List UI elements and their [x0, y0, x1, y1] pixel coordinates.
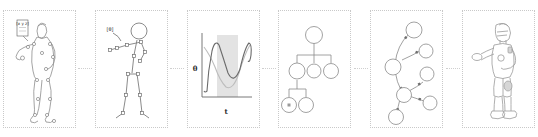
tree-node-leaf-2: [299, 97, 314, 112]
graph-node-1: [385, 59, 401, 75]
tree-node-child-1: [289, 63, 305, 79]
connector-4-5: [354, 68, 368, 70]
graph-node-4: [420, 67, 434, 81]
trajectory-chart: θ t: [188, 11, 259, 127]
vector-label-text: [x y z]: [16, 21, 29, 26]
panel-skeleton-angles: [θ]: [95, 10, 168, 128]
tree-node-child-2: [307, 64, 321, 78]
graph-node-6: [389, 109, 404, 124]
pipeline-figure: [x y z]: [0, 0, 538, 137]
theta-label-text: [θ]: [106, 26, 113, 32]
panel-human-keypoints: [x y z]: [3, 10, 76, 128]
graph-node-5: [423, 96, 437, 110]
chart-ylabel: θ: [192, 64, 197, 73]
theta-label: [θ]: [106, 26, 120, 41]
directed-graph-graphic: [371, 11, 442, 127]
graph-node-0: [406, 22, 422, 38]
connector-2-3: [170, 68, 184, 70]
graph-node-2: [419, 44, 433, 58]
chart-xlabel: t: [224, 107, 228, 116]
connector-5-6: [446, 68, 460, 70]
tree-node-root: [306, 26, 323, 43]
skeleton-graphic: [θ]: [96, 11, 167, 127]
vector-label: [x y z]: [16, 20, 29, 41]
panel-robot: [462, 10, 535, 128]
panel-kinematic-tree: [278, 10, 351, 128]
graph-nodes: [385, 22, 437, 125]
humanoid-robot-graphic: [463, 11, 534, 127]
tree-nodes: [282, 26, 339, 112]
connector-1-2: [78, 68, 92, 70]
connector-3-4: [262, 68, 276, 70]
panel-directed-graph: [370, 10, 443, 128]
graph-node-3: [397, 87, 412, 102]
human-keypoints-graphic: [x y z]: [4, 11, 75, 127]
panel-trajectory-plot: θ t: [187, 10, 260, 128]
kinematic-tree-graphic: [279, 11, 350, 127]
tree-node-child-3: [324, 63, 339, 78]
